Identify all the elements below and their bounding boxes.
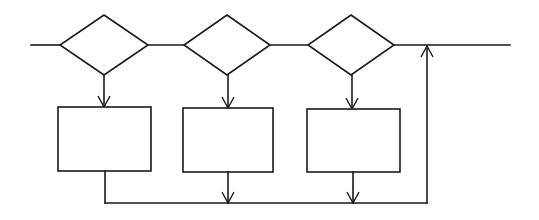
arrow-return-up-to-main	[421, 46, 433, 203]
decision-diamond-2	[184, 15, 270, 75]
process-box-1	[58, 107, 151, 171]
decision-diamond-3	[308, 15, 394, 75]
process-box-3	[307, 109, 400, 172]
arrow-decision-1-to-process-1	[98, 75, 110, 107]
process-box-2	[183, 108, 273, 172]
arrow-decision-3-to-process-3	[346, 75, 358, 109]
arrow-process-3-to-return	[347, 172, 359, 203]
arrow-process-2-to-return	[222, 172, 234, 203]
flowchart-canvas	[0, 0, 539, 220]
decision-diamond-1	[60, 15, 148, 75]
arrow-decision-2-to-process-2	[222, 75, 234, 108]
